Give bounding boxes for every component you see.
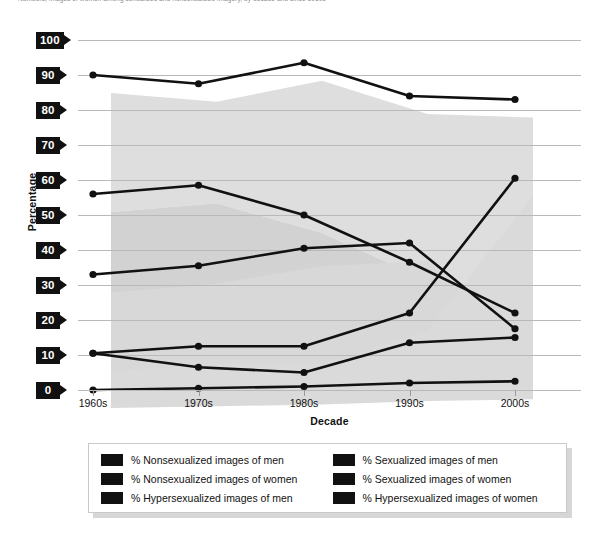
x-axis-title: Decade — [78, 415, 581, 427]
chart-page: Numbers, images of women among sexualize… — [0, 0, 606, 547]
y-tick-label: 0 — [36, 382, 60, 399]
y-tick-label: 60 — [36, 172, 60, 189]
x-tick-mark — [515, 390, 516, 396]
chart-legend: % Nonsexualized images of men% Sexualize… — [88, 443, 567, 513]
x-tick-mark — [93, 390, 94, 396]
x-tick-label: 1980s — [269, 397, 339, 409]
legend-label: % Hypersexualized images of women — [363, 492, 538, 504]
legend-swatch-icon — [333, 473, 355, 485]
y-tick-label: 20 — [36, 312, 60, 329]
legend-swatch-icon — [101, 473, 123, 485]
data-point[interactable] — [406, 92, 413, 99]
plot-canvas — [0, 0, 606, 440]
data-point[interactable] — [406, 239, 413, 246]
legend-entry[interactable]: % Sexualized images of women — [333, 469, 557, 488]
legend-label: % Nonsexualized images of men — [131, 454, 284, 466]
data-point[interactable] — [195, 80, 202, 87]
data-point[interactable] — [406, 309, 413, 316]
data-point[interactable] — [195, 343, 202, 350]
y-tick-label: 10 — [36, 347, 60, 364]
line-chart: 1009080706050403020100 Percentage 1960s1… — [0, 0, 606, 440]
legend-label: % Nonsexualized images of women — [131, 473, 297, 485]
data-point[interactable] — [195, 262, 202, 269]
data-point[interactable] — [195, 182, 202, 189]
data-point[interactable] — [511, 309, 518, 316]
legend-entry[interactable]: % Nonsexualized images of women — [101, 469, 325, 488]
y-axis-title: Percentage — [26, 157, 38, 247]
y-tick-label: 30 — [36, 277, 60, 294]
data-point[interactable] — [89, 190, 96, 197]
legend-label: % Sexualized images of men — [363, 454, 498, 466]
data-point[interactable] — [511, 378, 518, 385]
x-tick-label: 2000s — [480, 397, 550, 409]
data-point[interactable] — [300, 211, 307, 218]
data-point[interactable] — [406, 339, 413, 346]
data-point[interactable] — [406, 259, 413, 266]
legend-entry[interactable]: % Nonsexualized images of men — [101, 450, 325, 469]
legend-swatch-icon — [333, 454, 355, 466]
legend-entry[interactable]: % Hypersexualized images of men — [101, 488, 325, 507]
y-tick-label: 80 — [36, 102, 60, 119]
legend-swatch-icon — [101, 454, 123, 466]
legend-label: % Sexualized images of women — [363, 473, 512, 485]
data-point[interactable] — [300, 245, 307, 252]
x-axis-line — [78, 390, 581, 391]
data-point[interactable] — [511, 334, 518, 341]
x-tick-mark — [199, 390, 200, 396]
data-point[interactable] — [300, 343, 307, 350]
legend-grid: % Nonsexualized images of men% Sexualize… — [101, 450, 556, 507]
y-tick-label: 70 — [36, 137, 60, 154]
x-tick-mark — [410, 390, 411, 396]
x-tick-label: 1990s — [375, 397, 445, 409]
shadow-layer — [111, 81, 533, 408]
y-tick-label: 50 — [36, 207, 60, 224]
legend-swatch-icon — [101, 492, 123, 504]
y-tick-label: 90 — [36, 67, 60, 84]
data-point[interactable] — [511, 96, 518, 103]
data-point[interactable] — [195, 364, 202, 371]
y-tick-label: 100 — [36, 32, 64, 49]
legend-entry[interactable]: % Hypersexualized images of women — [333, 488, 557, 507]
data-point[interactable] — [511, 175, 518, 182]
data-point[interactable] — [89, 271, 96, 278]
data-point[interactable] — [300, 369, 307, 376]
data-point[interactable] — [511, 325, 518, 332]
y-tick-label: 40 — [36, 242, 60, 259]
legend-swatch-icon — [333, 492, 355, 504]
data-point[interactable] — [300, 59, 307, 66]
x-tick-label: 1970s — [164, 397, 234, 409]
x-tick-label: 1960s — [58, 397, 128, 409]
data-point[interactable] — [89, 71, 96, 78]
x-tick-mark — [304, 390, 305, 396]
legend-label: % Hypersexualized images of men — [131, 492, 293, 504]
data-point[interactable] — [89, 350, 96, 357]
legend-entry[interactable]: % Sexualized images of men — [333, 450, 557, 469]
data-point[interactable] — [406, 379, 413, 386]
